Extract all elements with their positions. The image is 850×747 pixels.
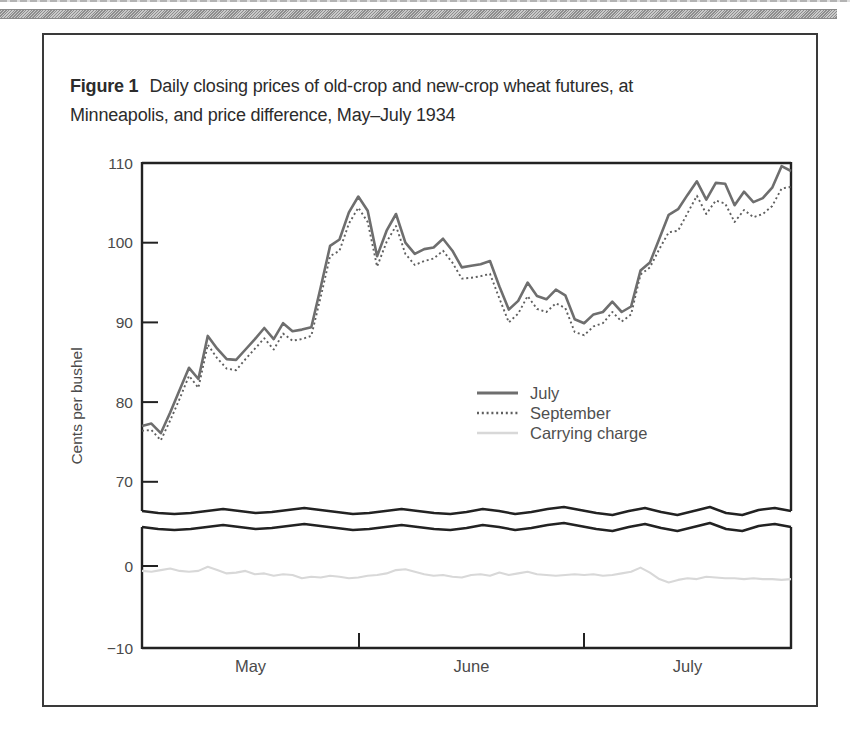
y-tick-label: 0	[124, 558, 133, 575]
september-line	[142, 187, 791, 441]
y-tick-label: 70	[116, 473, 134, 490]
wheat-futures-chart: 1101009080700−10MayJuneJulyCents per bus…	[0, 0, 850, 747]
y-tick-label: 110	[108, 155, 133, 172]
axis-break-line-lower	[142, 523, 791, 531]
y-tick-label: 100	[107, 234, 133, 251]
legend-label-carrying-charge: Carrying charge	[530, 424, 647, 442]
x-month-label: May	[235, 657, 267, 675]
y-tick-label: −10	[107, 640, 134, 657]
page: Figure 1Daily closing prices of old-crop…	[0, 0, 850, 747]
y-tick-label: 90	[116, 314, 134, 331]
legend-label-september: September	[530, 404, 611, 422]
x-month-label: June	[454, 657, 490, 675]
legend-label-july: July	[530, 384, 560, 402]
july-line	[142, 166, 791, 433]
y-axis-title: Cents per bushel	[68, 347, 85, 464]
y-tick-label: 80	[116, 394, 134, 411]
x-month-label: July	[673, 657, 703, 675]
carrying-charge-line	[142, 567, 791, 583]
axis-break-line-upper	[142, 507, 791, 515]
